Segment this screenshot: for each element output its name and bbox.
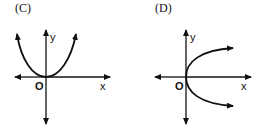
panel-c-graph: y x O: [15, 30, 110, 124]
d-parabola-upper: [186, 48, 233, 77]
d-parabola-lower: [186, 77, 233, 106]
c-x-label: x: [100, 80, 106, 92]
graphs: y x O y x O: [0, 0, 262, 128]
d-y-label: y: [190, 31, 196, 43]
panel-d-graph: y x O: [155, 30, 251, 124]
c-y-label: y: [50, 31, 56, 43]
d-x-label: x: [241, 80, 247, 92]
c-parabola-left: [17, 34, 46, 77]
c-origin-label: O: [35, 80, 44, 92]
d-origin-label: O: [175, 80, 184, 92]
